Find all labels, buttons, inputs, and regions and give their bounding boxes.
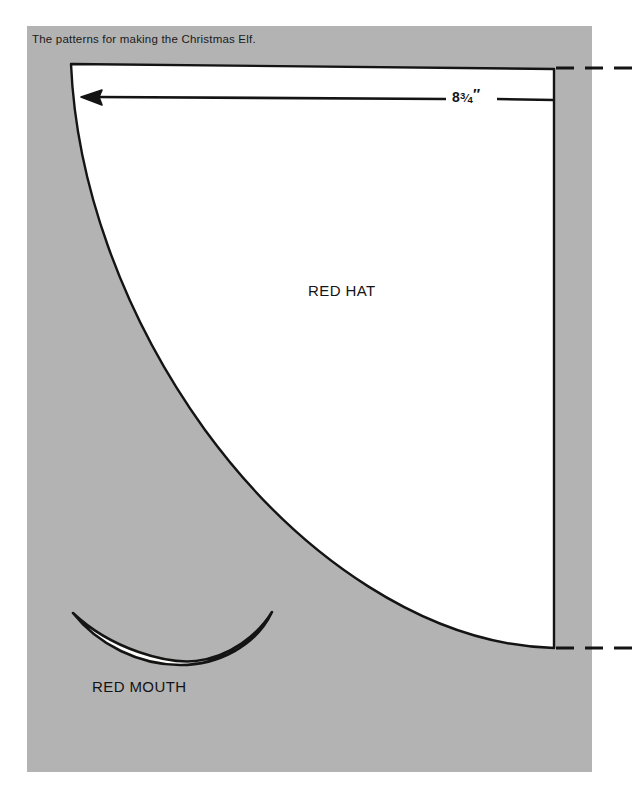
dimension-label: 83⁄4″ <box>452 85 480 105</box>
red-mouth-label: RED MOUTH <box>92 678 186 695</box>
dimension-whole: 8 <box>452 89 460 105</box>
red-hat-fill <box>71 64 554 648</box>
pattern-sheet: The patterns for making the Christmas El… <box>0 0 639 795</box>
red-hat-label: RED HAT <box>308 282 376 299</box>
panel-caption: The patterns for making the Christmas El… <box>32 29 452 49</box>
dimension-arrow-tail <box>497 99 554 100</box>
pattern-artwork <box>0 0 639 795</box>
red-hat-piece <box>71 64 554 648</box>
red-mouth-fill <box>73 612 272 665</box>
dimension-unit: ″ <box>473 85 480 102</box>
red-mouth-piece <box>73 612 272 665</box>
